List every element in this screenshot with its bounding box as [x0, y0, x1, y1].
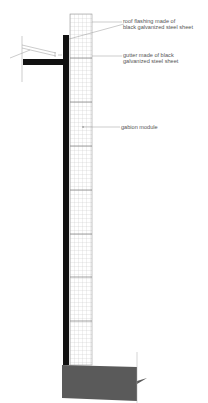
label-line: galvanized steel sheet — [123, 58, 178, 64]
label-gabion-module: gabion module — [121, 124, 158, 130]
gabion-column — [70, 14, 92, 365]
label-line: black galvanized steel sheet — [123, 24, 193, 30]
label-roof-flashing: roof flashing made of black galvanized s… — [123, 18, 193, 31]
label-gutter: gutter made of black galvanized steel sh… — [123, 52, 178, 65]
label-line: gabion module — [121, 124, 158, 130]
roof-beam — [23, 59, 63, 65]
steel-wall — [63, 35, 69, 365]
concrete-foundation — [62, 365, 147, 401]
